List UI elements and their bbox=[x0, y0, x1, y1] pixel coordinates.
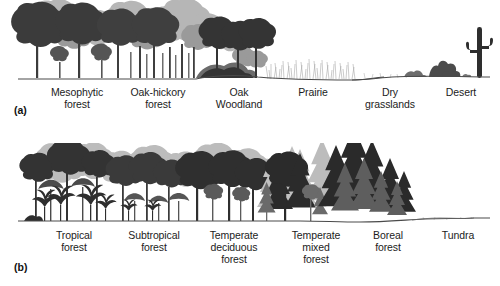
panel-b: Tropical forest Subtropical forest Tempe… bbox=[0, 143, 500, 286]
panel-a-tag: (a) bbox=[14, 104, 27, 116]
vegetation-gradient-figure: Mesophytic forest Oak-hickory forest Oak… bbox=[0, 0, 500, 286]
panel-b-scene bbox=[0, 143, 500, 238]
zone-label-boreal-forest: Boreal forest bbox=[352, 229, 424, 253]
zone-label-dry-grasslands: Dry grasslands bbox=[352, 86, 428, 110]
zone-label-tundra: Tundra bbox=[424, 229, 492, 241]
zone-label-temperate-deciduous-forest: Temperate deciduous forest bbox=[188, 229, 280, 265]
panel-a: Mesophytic forest Oak-hickory forest Oak… bbox=[0, 0, 500, 143]
panel-b-labels: Tropical forest Subtropical forest Tempe… bbox=[0, 229, 500, 269]
zone-label-desert: Desert bbox=[428, 86, 494, 98]
zone-label-oak-woodland: Oak Woodland bbox=[200, 86, 278, 110]
panel-b-tag: (b) bbox=[14, 261, 27, 273]
zone-label-temperate-mixed-forest: Temperate mixed forest bbox=[272, 229, 360, 265]
zone-label-subtropical-forest: Subtropical forest bbox=[110, 229, 198, 253]
panel-a-labels: Mesophytic forest Oak-hickory forest Oak… bbox=[0, 86, 500, 126]
zone-label-prairie: Prairie bbox=[278, 86, 348, 98]
zone-label-oak-hickory-forest: Oak-hickory forest bbox=[113, 86, 203, 110]
zone-label-mesophytic-forest: Mesophytic forest bbox=[34, 86, 120, 110]
zone-label-tropical-forest: Tropical forest bbox=[32, 229, 116, 253]
panel-a-scene bbox=[0, 0, 500, 95]
